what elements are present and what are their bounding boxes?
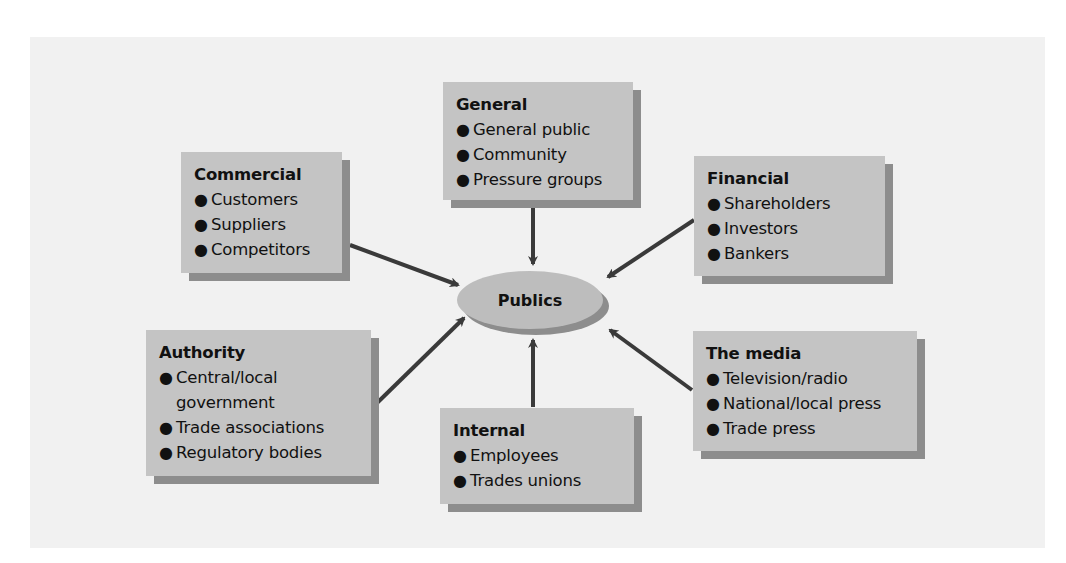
list-item: ●Community [456,142,621,167]
bullet-icon: ● [453,468,467,493]
list-item: ●Investors [707,216,873,241]
bullet-icon: ● [707,191,721,216]
list-item: ●Bankers [707,241,873,266]
group-title: Authority [159,340,359,365]
group-financial: Financial ●Shareholders ●Investors ●Bank… [694,156,885,276]
list-item: ●Employees [453,443,622,468]
list-item: ●Shareholders [707,191,873,216]
list-item: ●Competitors [194,237,330,262]
group-authority: Authority ●Central/local government ●Tra… [146,330,371,476]
group-commercial: Commercial ●Customers ●Suppliers ●Compet… [181,152,342,273]
bullet-icon: ● [159,440,173,465]
list-item: ●Trade associations [159,415,359,440]
bullet-icon: ● [159,365,173,390]
bullet-icon: ● [456,142,470,167]
group-title: The media [706,341,905,366]
bullet-icon: ● [159,415,173,440]
bullet-icon: ● [707,216,721,241]
list-item: ●Suppliers [194,212,330,237]
group-items: ●Employees ●Trades unions [453,443,622,493]
group-media: The media ●Television/radio ●National/lo… [693,331,917,451]
bullet-icon: ● [453,443,467,468]
group-items: ●Central/local government ●Trade associa… [159,365,359,465]
list-item: ●General public [456,117,621,142]
bullet-icon: ● [707,241,721,266]
publics-ellipse: Publics [457,271,603,329]
list-item: ●National/local press [706,391,905,416]
list-item: ●Trade press [706,416,905,441]
group-items: ●Customers ●Suppliers ●Competitors [194,187,330,262]
publics-label: Publics [498,291,563,310]
bullet-icon: ● [456,167,470,192]
bullet-icon: ● [194,212,208,237]
group-title: Financial [707,166,873,191]
arrow-media [610,330,692,390]
list-item: ●Television/radio [706,366,905,391]
group-internal: Internal ●Employees ●Trades unions [440,408,634,504]
group-items: ●Shareholders ●Investors ●Bankers [707,191,873,266]
arrow-financial [608,220,694,277]
publics-node: Publics [457,271,607,335]
bullet-icon: ● [194,237,208,262]
group-title: Commercial [194,162,330,187]
bullet-icon: ● [706,391,720,416]
list-item: ●Customers [194,187,330,212]
arrow-authority [377,318,464,403]
list-item: ●Trades unions [453,468,622,493]
bullet-icon: ● [706,366,720,391]
list-item: ●Regulatory bodies [159,440,359,465]
arrow-commercial [350,245,458,285]
list-item: ●Central/local government [159,365,359,415]
group-title: Internal [453,418,622,443]
bullet-icon: ● [194,187,208,212]
bullet-icon: ● [706,416,720,441]
group-general: General ●General public ●Community ●Pres… [443,82,633,200]
group-items: ●Television/radio ●National/local press … [706,366,905,441]
list-item: ●Pressure groups [456,167,621,192]
group-items: ●General public ●Community ●Pressure gro… [456,117,621,192]
group-title: General [456,92,621,117]
bullet-icon: ● [456,117,470,142]
